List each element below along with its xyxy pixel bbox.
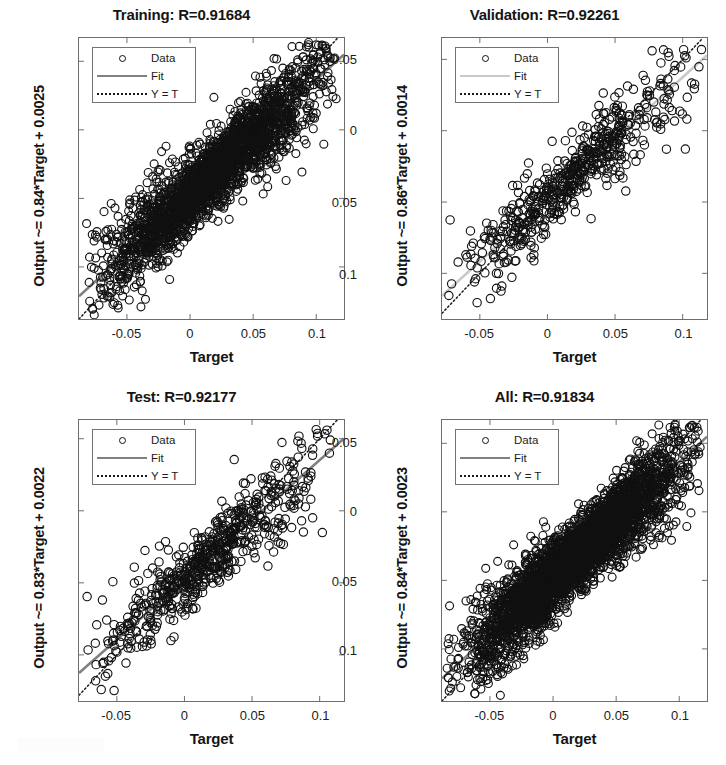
legend-row-identity: Y = T — [93, 85, 195, 103]
dotted-line-icon — [456, 467, 514, 485]
y-axis-label: Output ~= 0.83*Target + 0.0022 — [31, 426, 47, 711]
legend-row-fit: Fit — [456, 67, 558, 85]
x-tick-label: 0.1 — [287, 326, 347, 341]
regression-figure: Training: R=0.91684 Output ~= 0.84*Targe… — [0, 0, 726, 765]
legend-row-data: Data — [456, 431, 558, 449]
solid-line-icon — [456, 67, 514, 85]
panel-title: Validation: R=0.92261 — [363, 6, 726, 23]
legend: Data Fit Y = T — [455, 429, 559, 485]
y-tick-label: 0 — [297, 504, 357, 519]
legend-row-identity: Y = T — [456, 85, 558, 103]
legend-label-identity: Y = T — [151, 470, 178, 482]
legend-row-fit: Fit — [93, 67, 195, 85]
legend-label-fit: Fit — [514, 452, 527, 464]
x-tick-label: 0 — [160, 326, 220, 341]
legend-label-data: Data — [514, 434, 538, 446]
legend-row-identity: Y = T — [456, 467, 558, 485]
circle-marker-icon — [456, 49, 514, 67]
y-tick-label: 0.1 — [297, 642, 357, 657]
legend-row-data: Data — [93, 431, 195, 449]
solid-line-icon — [93, 67, 151, 85]
x-tick-label: 0.1 — [650, 708, 710, 723]
y-tick-label: 0.1 — [297, 267, 357, 282]
solid-line-icon — [456, 449, 514, 467]
x-tick-label: 0 — [154, 708, 214, 723]
x-tick-label: -0.05 — [96, 326, 156, 341]
y-tick-label: 0 — [297, 123, 357, 138]
legend: Data Fit Y = T — [92, 429, 196, 485]
x-tick-label: 0.1 — [290, 708, 350, 723]
x-tick-label: 0.05 — [586, 708, 646, 723]
x-tick-label: 0.05 — [585, 326, 645, 341]
legend-label-identity: Y = T — [514, 88, 541, 100]
x-axis-label: Target — [78, 348, 345, 365]
y-axis-label: Output ~= 0.86*Target + 0.0014 — [394, 44, 410, 329]
plot-area: Data Fit Y = T — [78, 419, 345, 702]
panel-all: All: R=0.91834 Output ~= 0.84*Target + 0… — [363, 382, 726, 765]
plot-area: Data Fit Y = T — [441, 37, 708, 320]
legend-row-identity: Y = T — [93, 467, 195, 485]
x-axis-label: Target — [441, 730, 708, 747]
x-tick-label: -0.05 — [459, 708, 519, 723]
legend-label-data: Data — [514, 52, 538, 64]
legend-row-fit: Fit — [456, 449, 558, 467]
panel-title: All: R=0.91834 — [363, 388, 726, 405]
x-tick-label: -0.05 — [449, 326, 509, 341]
legend-label-identity: Y = T — [151, 88, 178, 100]
panel-title: Training: R=0.91684 — [0, 6, 363, 23]
y-axis-label: Output ~= 0.84*Target + 0.0023 — [394, 426, 410, 711]
y-tick-label: 0.05 — [297, 573, 357, 588]
circle-marker-icon — [456, 431, 514, 449]
solid-line-icon — [93, 449, 151, 467]
legend-label-fit: Fit — [151, 70, 164, 82]
x-tick-label: -0.05 — [86, 708, 146, 723]
y-tick-label: -0.05 — [297, 51, 357, 66]
dotted-line-icon — [93, 85, 151, 103]
legend-label-fit: Fit — [151, 452, 164, 464]
panel-validation: Validation: R=0.92261 Output ~= 0.86*Tar… — [363, 0, 726, 382]
dotted-line-icon — [456, 85, 514, 103]
y-tick-label: -0.05 — [297, 435, 357, 450]
y-axis-label: Output ~= 0.84*Target + 0.0025 — [31, 44, 47, 329]
x-axis-label: Target — [441, 348, 708, 365]
x-tick-label: 0.05 — [223, 326, 283, 341]
legend: Data Fit Y = T — [92, 47, 196, 103]
legend-label-data: Data — [151, 52, 175, 64]
legend-row-data: Data — [93, 49, 195, 67]
plot-area: Data Fit Y = T — [441, 419, 708, 702]
panel-title: Test: R=0.92177 — [0, 388, 363, 405]
legend: Data Fit Y = T — [455, 47, 559, 103]
y-tick-label: 0.05 — [297, 195, 357, 210]
legend-row-fit: Fit — [93, 449, 195, 467]
scan-artifact — [18, 738, 104, 752]
x-axis-label: Target — [78, 730, 345, 747]
legend-row-data: Data — [456, 49, 558, 67]
x-tick-label: 0 — [517, 326, 577, 341]
legend-label-identity: Y = T — [514, 470, 541, 482]
x-tick-label: 0 — [523, 708, 583, 723]
legend-label-data: Data — [151, 434, 175, 446]
x-tick-label: 0.05 — [222, 708, 282, 723]
legend-label-fit: Fit — [514, 70, 527, 82]
x-tick-label: 0.1 — [653, 326, 713, 341]
dotted-line-icon — [93, 467, 151, 485]
circle-marker-icon — [93, 49, 151, 67]
circle-marker-icon — [93, 431, 151, 449]
